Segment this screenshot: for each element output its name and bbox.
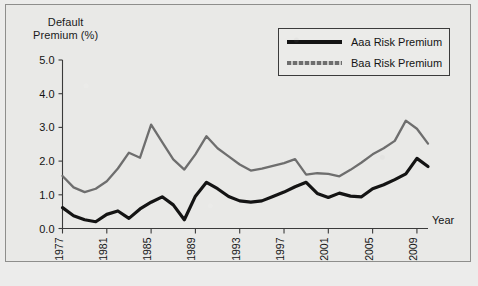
- legend-label-baa: Baa Risk Premium: [351, 57, 442, 69]
- y-tick-label: 3.0: [39, 121, 54, 133]
- y-tick-label: 1.0: [39, 189, 54, 201]
- x-tick-label: 2005: [363, 237, 375, 261]
- x-tick-label: 1997: [274, 237, 286, 261]
- series-line-baa: [63, 121, 429, 192]
- x-tick-group: 197719811985198919931997200120052009: [53, 229, 419, 261]
- x-tick-label: 1985: [141, 237, 153, 261]
- chart-page: Default Premium (%) 0.01.02.03.04.05.0 1…: [0, 0, 478, 286]
- legend-swatch-aaa-icon: [287, 40, 342, 44]
- x-tick-label: 2001: [318, 237, 330, 261]
- x-tick-label: 1989: [185, 237, 197, 261]
- x-tick-label: 1981: [97, 237, 109, 261]
- legend-item-baa: Baa Risk Premium: [287, 52, 442, 74]
- x-tick-label: 2009: [407, 237, 419, 261]
- series-group: [63, 121, 429, 222]
- y-tick-label: 0.0: [39, 223, 54, 235]
- x-tick-label: 1977: [53, 237, 65, 261]
- y-tick-label: 4.0: [39, 88, 54, 100]
- legend-swatch-baa-icon: [287, 61, 342, 65]
- y-tick-label: 5.0: [39, 54, 54, 66]
- legend-label-aaa: Aaa Risk Premium: [351, 36, 442, 48]
- y-tick-label: 2.0: [39, 155, 54, 167]
- legend-item-aaa: Aaa Risk Premium: [287, 31, 442, 53]
- x-axis-label: Year: [432, 214, 455, 226]
- x-tick-label: 1993: [230, 237, 242, 261]
- y-tick-group: 0.01.02.03.04.05.0: [39, 54, 62, 235]
- legend: Aaa Risk Premium Baa Risk Premium: [278, 28, 450, 76]
